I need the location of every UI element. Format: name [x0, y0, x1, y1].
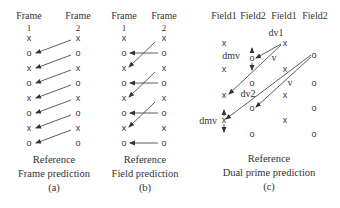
- arrow-icon: [36, 130, 71, 143]
- field-mark-o: o: [26, 108, 31, 118]
- arrow-icon: [36, 55, 71, 68]
- field-mark-o: o: [26, 138, 31, 148]
- field-mark-x: x: [122, 33, 127, 43]
- panel-b-caption-reference: Reference: [124, 154, 167, 165]
- panel-b-header-frame1: Frame: [111, 10, 137, 21]
- panel-a-header-frame1: Frame: [16, 10, 42, 21]
- field-mark-o: o: [161, 78, 166, 88]
- label-v-bottom: v: [288, 77, 293, 88]
- panel-a-frame-number-1: 1: [27, 23, 32, 33]
- field-mark-x: x: [122, 63, 127, 73]
- field-mark-x: x: [162, 63, 167, 73]
- field-mark-x: x: [162, 33, 167, 43]
- panel-a-frame-prediction: Frame Frame 1 2 x o x o x o x o x o x o …: [16, 10, 91, 194]
- field-mark-o: o: [75, 108, 80, 118]
- field-mark-x: x: [283, 64, 288, 74]
- panel-b-right-column: x o x o x o x o: [161, 33, 166, 148]
- panel-a-frame-number-2: 2: [76, 23, 81, 33]
- field-mark-x: x: [283, 38, 288, 48]
- field-mark-o: o: [311, 50, 316, 60]
- label-dv2: dv2: [241, 88, 256, 99]
- panel-a-header-frame2: Frame: [65, 10, 91, 21]
- field-mark-o: o: [26, 48, 31, 58]
- field-mark-o: o: [311, 103, 316, 113]
- label-dmv-top: dmv: [222, 50, 240, 61]
- field-mark-o: o: [26, 78, 31, 88]
- panel-c-header-field1-b: Field1: [271, 10, 297, 21]
- field-mark-x: x: [162, 93, 167, 103]
- field-mark-o: o: [121, 138, 126, 148]
- field-mark-o: o: [161, 108, 166, 118]
- field-mark-x: x: [76, 63, 81, 73]
- panel-b-caption-label: (b): [139, 182, 152, 194]
- arrow-icon: [129, 42, 155, 67]
- field-mark-o: o: [75, 48, 80, 58]
- arrow-icon: [226, 55, 311, 119]
- field-mark-x: x: [27, 33, 32, 43]
- panel-b-frame-number-1: 1: [122, 23, 127, 33]
- motion-prediction-diagram: Frame Frame 1 2 x o x o x o x o x o x o …: [0, 0, 340, 208]
- panel-a-arrows: [36, 40, 71, 143]
- arrow-icon: [36, 40, 71, 53]
- panel-b-header-frame2: Frame: [151, 10, 177, 21]
- field-mark-o: o: [75, 78, 80, 88]
- field-mark-o: o: [121, 78, 126, 88]
- field-mark-o: o: [249, 53, 254, 63]
- field-mark-o: o: [311, 129, 316, 139]
- panel-a-right-column: x o x o x o x o: [75, 33, 80, 148]
- arrow-icon: [256, 44, 281, 58]
- panel-c-caption-label: (c): [263, 181, 275, 193]
- field-mark-o: o: [121, 108, 126, 118]
- field-mark-x: x: [162, 123, 167, 133]
- label-dmv-bottom: dmv: [199, 115, 217, 126]
- field-mark-o: o: [249, 129, 254, 139]
- panel-b-field-prediction: Frame Frame 1 2 x o x o x o x o x o x o …: [111, 10, 179, 194]
- field-mark-x: x: [27, 93, 32, 103]
- field-mark-x: x: [76, 33, 81, 43]
- field-mark-x: x: [222, 64, 227, 74]
- field-mark-x: x: [27, 63, 32, 73]
- field-mark-o: o: [249, 103, 254, 113]
- panel-c-caption-title: Dual prime prediction: [223, 167, 316, 178]
- field-mark-x: x: [222, 115, 227, 125]
- panel-c-header-field2-b: Field2: [302, 10, 328, 21]
- panel-c-header-field2-a: Field2: [240, 10, 266, 21]
- arrow-icon: [36, 100, 71, 113]
- field-mark-o: o: [311, 78, 316, 88]
- field-mark-o: o: [161, 48, 166, 58]
- arrow-icon: [36, 115, 71, 128]
- field-mark-x: x: [222, 38, 227, 48]
- label-dv1: dv1: [269, 27, 284, 38]
- panel-a-left-column: x o x o x o x o: [26, 33, 31, 148]
- panel-a-caption-label: (a): [48, 182, 60, 194]
- field-mark-x: x: [283, 115, 288, 125]
- field-mark-x: x: [76, 93, 81, 103]
- arrow-icon: [36, 85, 71, 98]
- field-mark-o: o: [121, 48, 126, 58]
- panel-c-caption-reference: Reference: [248, 153, 291, 164]
- arrow-icon: [36, 70, 71, 83]
- field-mark-x: x: [283, 90, 288, 100]
- arrow-icon: [129, 72, 155, 97]
- field-mark-x: x: [122, 123, 127, 133]
- panel-b-frame-number-2: 2: [162, 23, 167, 33]
- field-mark-x: x: [76, 123, 81, 133]
- panel-b-arrows: [129, 42, 158, 143]
- field-mark-o: o: [249, 78, 254, 88]
- field-mark-x: x: [122, 93, 127, 103]
- panel-c-dual-prime-prediction: Field1 Field2 Field1 Field2 x x x x o o …: [199, 10, 328, 193]
- field-mark-x: x: [27, 123, 32, 133]
- panel-c-header-field1-a: Field1: [211, 10, 237, 21]
- panel-a-caption-title: Frame prediction: [18, 168, 91, 179]
- panel-b-left-column: x o x o x o x o: [121, 33, 126, 148]
- field-mark-o: o: [75, 138, 80, 148]
- arrow-icon: [129, 102, 155, 127]
- panel-a-caption-reference: Reference: [33, 154, 76, 165]
- field-mark-x: x: [222, 90, 227, 100]
- panel-b-caption-title: Field prediction: [112, 168, 180, 179]
- field-mark-o: o: [161, 138, 166, 148]
